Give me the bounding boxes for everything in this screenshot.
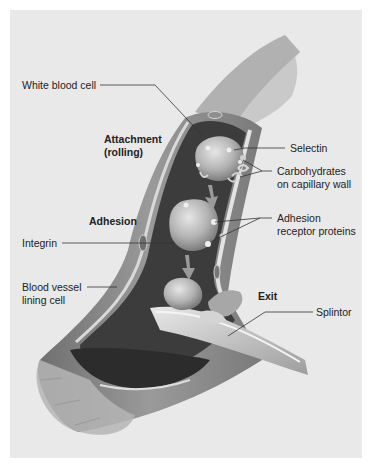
label-splintor: Splintor xyxy=(316,306,352,319)
stage-exit: Exit xyxy=(258,290,277,303)
stage-attachment-sub: (rolling) xyxy=(104,146,143,159)
label-lining-cell-line2: lining cell xyxy=(22,294,65,307)
label-adhesion-receptor-line2: receptor proteins xyxy=(277,225,356,238)
lining-cell-nucleus xyxy=(214,265,220,279)
stage-adhesion: Adhesion xyxy=(89,215,137,228)
label-carbohydrates-line1: Carbohydrates xyxy=(277,165,346,178)
stage-attachment: Attachment xyxy=(104,133,162,146)
label-carbohydrates-line2: on capillary wall xyxy=(277,178,351,191)
label-lining-cell-line1: Blood vessel xyxy=(22,281,82,294)
label-selectin: Selectin xyxy=(290,142,327,155)
label-adhesion-receptor-line1: Adhesion xyxy=(277,212,321,225)
label-white-blood-cell: White blood cell xyxy=(22,79,96,92)
label-integrin: Integrin xyxy=(22,237,57,250)
lining-cell-nucleus xyxy=(208,112,222,119)
